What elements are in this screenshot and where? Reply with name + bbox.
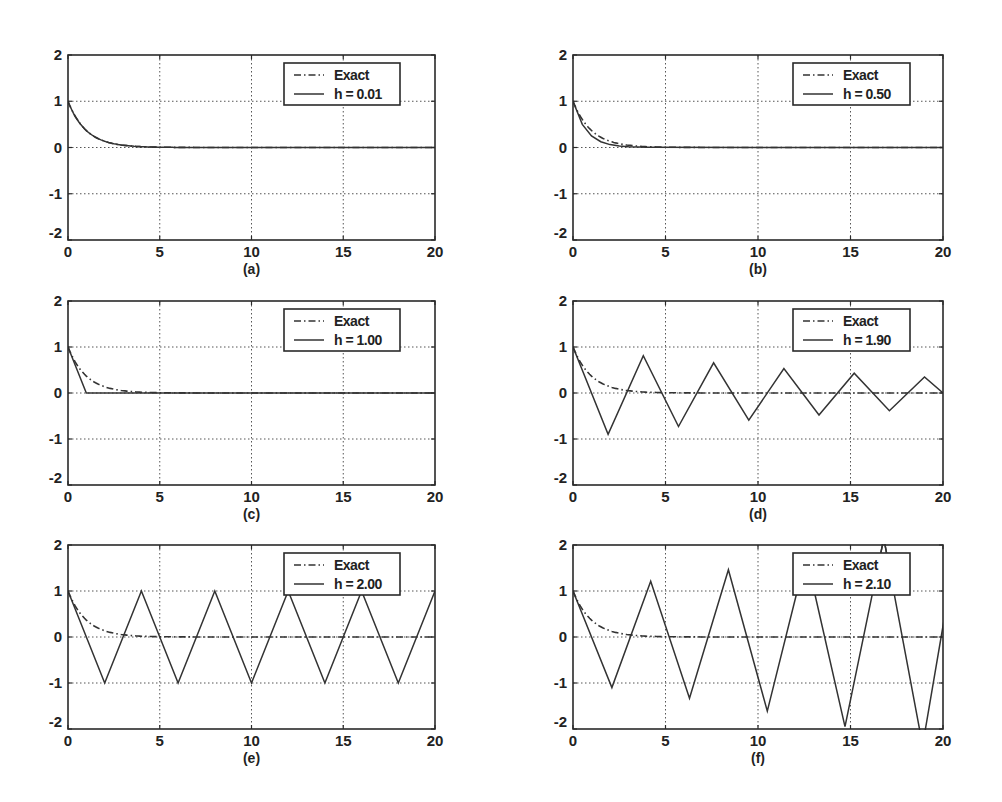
y-tick-label: -2	[49, 713, 62, 730]
legend: Exacth = 2.00	[284, 553, 400, 595]
x-tick-label: 0	[569, 732, 577, 749]
subplot-c: 05101520-2-1012(c)Exacth = 1.00	[49, 292, 444, 522]
x-tick-label: 15	[842, 732, 859, 749]
y-tick-label: -1	[49, 185, 62, 202]
x-tick-label: 20	[427, 243, 444, 260]
legend-exact-label: Exact	[334, 557, 370, 573]
legend-approx-label: h = 2.10	[843, 576, 891, 592]
y-tick-label: -1	[49, 674, 62, 691]
x-tick-label: 0	[64, 243, 72, 260]
y-tick-label: -2	[49, 469, 62, 486]
x-tick-label: 5	[661, 732, 669, 749]
y-tick-label: 2	[54, 292, 62, 309]
y-tick-label: 2	[559, 292, 567, 309]
x-tick-label: 20	[427, 732, 444, 749]
x-tick-label: 15	[335, 732, 352, 749]
figure-six-panel-euler-plots: 05101520-2-1012(a)Exacth = 0.0105101520-…	[0, 0, 1002, 802]
legend-exact-label: Exact	[843, 313, 879, 329]
x-tick-label: 10	[750, 243, 767, 260]
x-tick-label: 10	[750, 488, 767, 505]
legend: Exacth = 1.90	[793, 309, 910, 351]
y-tick-label: 1	[559, 338, 567, 355]
subplot-caption: (d)	[749, 506, 767, 522]
y-tick-label: 2	[559, 536, 567, 553]
x-tick-label: 15	[842, 488, 859, 505]
subplot-f: 05101520-2-1012(f)Exacth = 2.10	[554, 518, 962, 766]
y-tick-label: 0	[559, 139, 567, 156]
x-tick-label: 0	[64, 732, 72, 749]
legend-approx-label: h = 0.01	[334, 86, 382, 102]
x-tick-label: 5	[661, 243, 669, 260]
legend: Exacth = 2.10	[793, 553, 910, 595]
y-tick-label: 0	[54, 384, 62, 401]
x-tick-label: 20	[427, 488, 444, 505]
legend-exact-label: Exact	[334, 67, 370, 83]
y-tick-label: 0	[559, 384, 567, 401]
x-tick-label: 10	[243, 732, 260, 749]
legend: Exacth = 0.50	[793, 63, 910, 105]
x-tick-label: 20	[935, 732, 952, 749]
legend-approx-label: h = 1.90	[843, 332, 891, 348]
y-tick-label: 0	[54, 139, 62, 156]
x-tick-label: 5	[661, 488, 669, 505]
subplot-caption: (f)	[751, 750, 765, 766]
y-tick-label: -1	[554, 430, 567, 447]
y-tick-label: 2	[54, 536, 62, 553]
x-tick-label: 5	[156, 243, 164, 260]
y-tick-label: 0	[559, 628, 567, 645]
y-tick-label: 0	[54, 628, 62, 645]
subplot-b: 05101520-2-1012(b)Exacth = 0.50	[554, 46, 952, 277]
x-tick-label: 5	[156, 732, 164, 749]
y-tick-label: 2	[54, 46, 62, 63]
subplot-caption: (c)	[243, 506, 260, 522]
subplot-caption: (b)	[749, 261, 767, 277]
x-tick-label: 20	[935, 488, 952, 505]
y-tick-label: -2	[49, 224, 62, 241]
y-tick-label: 2	[559, 46, 567, 63]
y-tick-label: 1	[559, 92, 567, 109]
y-tick-label: -2	[554, 469, 567, 486]
x-tick-label: 10	[243, 243, 260, 260]
x-tick-label: 10	[243, 488, 260, 505]
x-tick-label: 0	[569, 243, 577, 260]
legend-exact-label: Exact	[843, 67, 879, 83]
y-tick-label: 1	[559, 582, 567, 599]
x-tick-label: 15	[335, 243, 352, 260]
x-tick-label: 0	[64, 488, 72, 505]
x-tick-label: 15	[842, 243, 859, 260]
subplot-e: 05101520-2-1012(e)Exacth = 2.00	[49, 536, 444, 766]
y-tick-label: 1	[54, 582, 62, 599]
subplot-caption: (a)	[243, 261, 260, 277]
x-tick-label: 20	[935, 243, 952, 260]
x-tick-label: 10	[750, 732, 767, 749]
subplot-caption: (e)	[243, 750, 260, 766]
y-tick-label: 1	[54, 92, 62, 109]
x-tick-label: 15	[335, 488, 352, 505]
legend-approx-label: h = 0.50	[843, 86, 891, 102]
x-tick-label: 0	[569, 488, 577, 505]
y-tick-label: -2	[554, 713, 567, 730]
y-tick-label: -2	[554, 224, 567, 241]
subplot-d: 05101520-2-1012(d)Exacth = 1.90	[554, 292, 952, 522]
x-tick-label: 5	[156, 488, 164, 505]
y-tick-label: -1	[554, 185, 567, 202]
y-tick-label: -1	[49, 430, 62, 447]
legend-approx-label: h = 2.00	[334, 576, 382, 592]
legend-approx-label: h = 1.00	[334, 332, 382, 348]
y-tick-label: 1	[54, 338, 62, 355]
y-tick-label: -1	[554, 674, 567, 691]
euler-approximation-line	[573, 518, 962, 746]
legend: Exacth = 0.01	[284, 63, 400, 105]
legend-exact-label: Exact	[843, 557, 879, 573]
legend: Exacth = 1.00	[284, 309, 400, 351]
subplot-a: 05101520-2-1012(a)Exacth = 0.01	[49, 46, 444, 277]
legend-exact-label: Exact	[334, 313, 370, 329]
